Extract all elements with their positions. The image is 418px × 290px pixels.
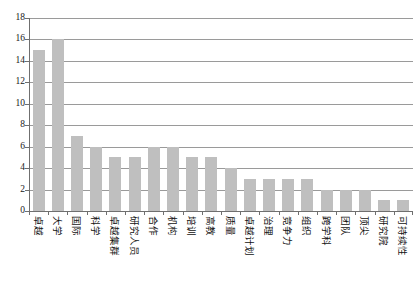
x-tick-mark <box>240 211 241 215</box>
y-tick: 18 <box>0 13 25 23</box>
y-tick: 16 <box>0 34 25 44</box>
bar-chart: 181614121086420 卓越大学国际科学卓越集群研究人员合作机构培训高教… <box>0 0 418 290</box>
y-tick-label: 4 <box>3 163 25 173</box>
x-tick-mark <box>317 211 318 215</box>
x-tick-label: 竞争力 <box>282 216 293 290</box>
bar <box>263 179 275 211</box>
bar <box>52 39 64 211</box>
y-tick-label: 2 <box>3 185 25 195</box>
x-tick-mark <box>221 211 222 215</box>
bar <box>225 168 237 211</box>
x-tick-label: 团队 <box>340 216 351 290</box>
x-tick-mark <box>67 211 68 215</box>
x-tick-label: 研究院 <box>378 216 389 290</box>
x-tick-label: 卓越 <box>33 216 44 290</box>
x-tick-label: 培训 <box>186 216 197 290</box>
y-tick: 2 <box>0 185 25 195</box>
x-tick-mark <box>336 211 337 215</box>
y-tick-label: 10 <box>3 99 25 109</box>
bar-series <box>29 18 413 211</box>
x-tick-mark <box>163 211 164 215</box>
bar <box>301 179 313 211</box>
x-tick-label: 质量 <box>225 216 236 290</box>
bar <box>90 147 102 211</box>
bar <box>205 157 217 211</box>
y-tick-label: 0 <box>3 206 25 216</box>
x-tick-mark <box>125 211 126 215</box>
x-tick-mark <box>394 211 395 215</box>
x-tick-mark <box>144 211 145 215</box>
y-tick: 0 <box>0 206 25 216</box>
y-tick-label: 12 <box>3 77 25 87</box>
y-tick: 12 <box>0 77 25 87</box>
x-tick-label: 科学 <box>90 216 101 290</box>
x-tick-label: 高教 <box>205 216 216 290</box>
bar <box>397 200 409 211</box>
y-tick-label: 14 <box>3 56 25 66</box>
y-tick: 4 <box>0 163 25 173</box>
x-tick-label: 机构 <box>167 216 178 290</box>
bar <box>33 50 45 211</box>
y-tick-label: 18 <box>3 13 25 23</box>
x-tick-label: 研究人员 <box>129 216 140 290</box>
x-tick-label: 卓越集群 <box>109 216 120 290</box>
y-tick: 6 <box>0 142 25 152</box>
bar <box>148 147 160 211</box>
x-axis-labels: 卓越大学国际科学卓越集群研究人员合作机构培训高教质量卓越计划治理竞争力组织跨学科… <box>29 216 413 290</box>
x-tick-label: 卓越计划 <box>244 216 255 290</box>
y-tick-label: 8 <box>3 120 25 130</box>
x-tick-mark <box>48 211 49 215</box>
x-tick-mark <box>259 211 260 215</box>
bar <box>378 200 390 211</box>
x-tick-mark <box>87 211 88 215</box>
bar <box>282 179 294 211</box>
bar <box>321 190 333 211</box>
x-tick-mark <box>412 211 413 215</box>
x-tick-label: 组织 <box>301 216 312 290</box>
bar <box>244 179 256 211</box>
x-tick-mark <box>279 211 280 215</box>
y-tick: 14 <box>0 56 25 66</box>
y-tick-label: 16 <box>3 34 25 44</box>
x-tick-label: 跨学科 <box>321 216 332 290</box>
x-tick-label: 顶尖 <box>359 216 370 290</box>
x-tick-mark <box>298 211 299 215</box>
bar <box>167 147 179 211</box>
x-tick-mark <box>202 211 203 215</box>
x-tick-mark <box>375 211 376 215</box>
x-tick-label: 治理 <box>263 216 274 290</box>
bar <box>340 190 352 211</box>
x-tick-label: 可持续性 <box>397 216 408 290</box>
bar <box>359 190 371 211</box>
x-tick-label: 合作 <box>148 216 159 290</box>
y-tick: 8 <box>0 120 25 130</box>
x-tick-mark <box>29 211 30 215</box>
y-tick-label: 6 <box>3 142 25 152</box>
x-tick-label: 国际 <box>71 216 82 290</box>
x-tick-mark <box>355 211 356 215</box>
bar <box>71 136 83 211</box>
bar <box>186 157 198 211</box>
y-tick: 10 <box>0 99 25 109</box>
bar <box>109 157 121 211</box>
x-tick-mark <box>183 211 184 215</box>
x-tick-mark <box>106 211 107 215</box>
bar <box>129 157 141 211</box>
x-tick-label: 大学 <box>52 216 63 290</box>
